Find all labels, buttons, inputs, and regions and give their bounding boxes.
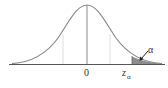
normal-curve-diagram: 0 z α α: [0, 0, 168, 88]
alpha-arrow: [141, 51, 148, 59]
center-label: 0: [84, 67, 89, 78]
critical-value-label: z: [121, 67, 126, 78]
critical-value-subscript: α: [127, 73, 131, 81]
normal-distribution-figure: 0 z α α: [0, 0, 168, 88]
tail-area-label: α: [148, 44, 154, 55]
